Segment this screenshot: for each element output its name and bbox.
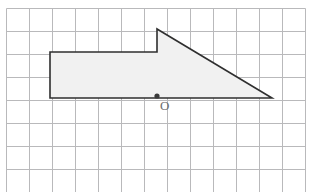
geometry-figure xyxy=(0,0,315,192)
centre-point-label: O xyxy=(160,99,169,112)
shaded-polygon xyxy=(50,29,272,98)
centre-point-dot xyxy=(154,93,159,98)
square-grid xyxy=(7,9,306,193)
figure-canvas: O xyxy=(0,0,315,192)
